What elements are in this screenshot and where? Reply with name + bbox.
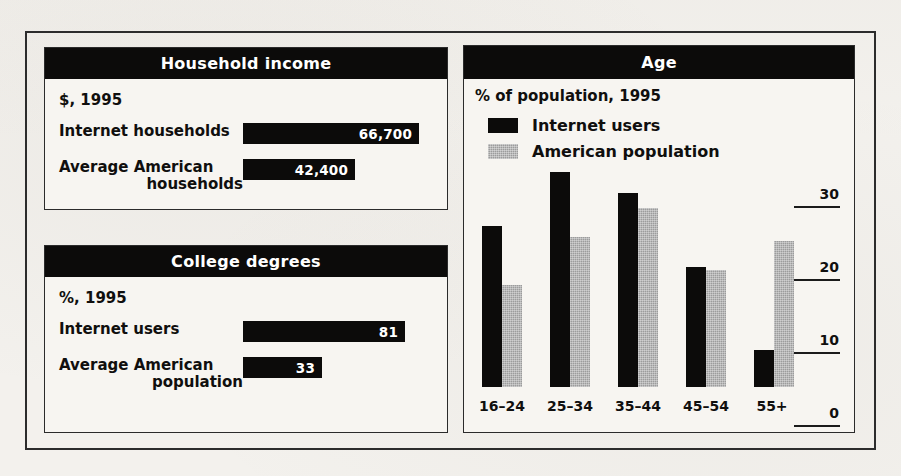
hbar-label-line2: households bbox=[59, 176, 243, 193]
cat-label-55-plus: 55+ bbox=[741, 398, 803, 414]
bar-internet-users-25-34 bbox=[550, 172, 570, 387]
hbar-label-line1: Average American bbox=[59, 356, 213, 374]
ytick-label-10: 10 bbox=[805, 332, 839, 348]
college-subtitle: %, 1995 bbox=[59, 289, 127, 307]
hbar-row-average-american-population: Average American population 33 bbox=[45, 357, 447, 391]
bar-internet-users-16-24 bbox=[482, 226, 502, 387]
gridline-0 bbox=[794, 425, 840, 427]
age-bar-chart-plot: 30 20 10 0 bbox=[469, 79, 856, 432]
hbar-value-average-american-households: 42,400 bbox=[295, 162, 348, 178]
ytick-label-30: 30 bbox=[805, 186, 839, 202]
cat-label-35-44: 35–44 bbox=[607, 398, 669, 414]
panel-age-title: Age bbox=[464, 46, 854, 79]
bar-internet-users-45-54 bbox=[686, 267, 706, 387]
hbar-label-line1: Internet users bbox=[59, 320, 179, 338]
gridline-10 bbox=[794, 352, 840, 354]
ytick-label-20: 20 bbox=[805, 259, 839, 275]
gridline-30 bbox=[794, 206, 840, 208]
bar-american-population-45-54 bbox=[706, 270, 726, 387]
gridline-20 bbox=[794, 279, 840, 281]
hbar-label-internet-users: Internet users bbox=[45, 321, 243, 338]
household-subtitle: $, 1995 bbox=[59, 91, 122, 109]
hbar-label-internet-households: Internet households bbox=[45, 123, 243, 140]
hbar-internet-users: 81 bbox=[243, 321, 405, 342]
hbar-track-average-american-population: 33 bbox=[243, 357, 447, 378]
cat-label-45-54: 45–54 bbox=[675, 398, 737, 414]
bar-american-population-35-44 bbox=[638, 208, 658, 387]
bar-group-55-plus bbox=[754, 241, 794, 387]
hbar-row-internet-households: Internet households 66,700 bbox=[45, 123, 447, 144]
cat-label-25-34: 25–34 bbox=[539, 398, 601, 414]
panel-household-income: Household income $, 1995 Internet househ… bbox=[44, 47, 448, 210]
hbar-value-average-american-population: 33 bbox=[296, 360, 315, 376]
hbar-label-line2: population bbox=[59, 374, 243, 391]
hbar-average-american-households: 42,400 bbox=[243, 159, 355, 180]
bar-internet-users-35-44 bbox=[618, 193, 638, 387]
panel-college-degrees-title: College degrees bbox=[45, 246, 447, 277]
hbar-label-line1: Internet households bbox=[59, 122, 230, 140]
hbar-row-average-american-households: Average American households 42,400 bbox=[45, 159, 447, 193]
hbar-average-american-population: 33 bbox=[243, 357, 322, 378]
hbar-row-internet-users: Internet users 81 bbox=[45, 321, 447, 342]
bar-american-population-25-34 bbox=[570, 237, 590, 387]
panel-college-degrees: College degrees %, 1995 Internet users 8… bbox=[44, 245, 448, 433]
bar-group-16-24 bbox=[482, 226, 522, 387]
panel-age: Age % of population, 1995 Internet users… bbox=[463, 45, 855, 433]
bar-group-45-54 bbox=[686, 267, 726, 387]
infographic-page: Household income $, 1995 Internet househ… bbox=[0, 0, 901, 476]
ytick-label-0: 0 bbox=[805, 405, 839, 421]
hbar-track-internet-households: 66,700 bbox=[243, 123, 447, 144]
hbar-value-internet-households: 66,700 bbox=[359, 126, 412, 142]
hbar-label-average-american-population: Average American population bbox=[45, 357, 243, 391]
bar-group-35-44 bbox=[618, 193, 658, 387]
panel-household-income-title: Household income bbox=[45, 48, 447, 79]
hbar-internet-households: 66,700 bbox=[243, 123, 419, 144]
bar-internet-users-55-plus bbox=[754, 350, 774, 387]
hbar-value-internet-users: 81 bbox=[379, 324, 398, 340]
hbar-label-average-american-households: Average American households bbox=[45, 159, 243, 193]
hbar-label-line1: Average American bbox=[59, 158, 213, 176]
bar-american-population-55-plus bbox=[774, 241, 794, 387]
hbar-track-internet-users: 81 bbox=[243, 321, 447, 342]
bar-group-25-34 bbox=[550, 172, 590, 387]
cat-label-16-24: 16–24 bbox=[471, 398, 533, 414]
panel-age-body: % of population, 1995 Internet users Ame… bbox=[464, 79, 854, 432]
hbar-track-average-american-households: 42,400 bbox=[243, 159, 447, 180]
bar-american-population-16-24 bbox=[502, 285, 522, 387]
